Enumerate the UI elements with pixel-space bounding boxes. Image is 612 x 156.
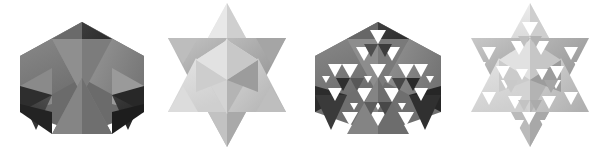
star-fractal-body	[471, 3, 589, 147]
figure-panel-light-star-fractal	[452, 0, 612, 156]
light-star-fractal-drawing	[452, 0, 612, 156]
figure-panel-dark-hexagonal-fractal	[300, 0, 456, 156]
light-star-compound-drawing	[150, 0, 304, 156]
hole	[474, 62, 486, 73]
figure-panel-light-star-compound	[150, 0, 304, 156]
star-compound-body	[168, 3, 286, 147]
hexagonal-fractal-body	[315, 22, 441, 134]
dark-hexagonal-fractal-drawing	[300, 0, 456, 156]
dark-hexagonal-compound-drawing	[0, 0, 156, 156]
figure-strip	[0, 0, 612, 156]
hexagonal-compound-body	[20, 22, 144, 134]
figure-panel-dark-hexagonal-compound	[0, 0, 156, 156]
hole	[540, 120, 552, 131]
hole	[574, 62, 586, 73]
